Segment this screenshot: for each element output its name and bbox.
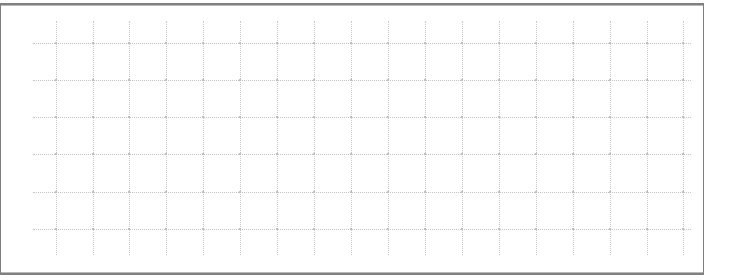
table-cell[interactable]: [240, 229, 277, 255]
table-cell[interactable]: [56, 80, 93, 117]
table-cell[interactable]: [277, 80, 314, 117]
table-cell[interactable]: [93, 80, 129, 117]
table-cell[interactable]: [56, 154, 93, 192]
table-cell[interactable]: [647, 229, 683, 255]
table-cell[interactable]: [499, 192, 536, 229]
table-cell[interactable]: [536, 80, 573, 117]
table-cell[interactable]: [166, 229, 203, 255]
table-cell[interactable]: [462, 80, 499, 117]
table-cell[interactable]: [203, 229, 240, 255]
table-cell[interactable]: [240, 154, 277, 192]
table-cell[interactable]: [499, 154, 536, 192]
table-cell[interactable]: [388, 43, 425, 80]
table-cell[interactable]: [499, 43, 536, 80]
table-cell[interactable]: [277, 154, 314, 192]
table-cell[interactable]: [240, 117, 277, 154]
table-cell[interactable]: [203, 43, 240, 80]
table-cell[interactable]: [351, 21, 388, 43]
table-cell[interactable]: [314, 192, 351, 229]
table-cell[interactable]: [647, 21, 683, 43]
table-cell[interactable]: [610, 192, 647, 229]
table-cell[interactable]: [351, 229, 388, 255]
table-cell[interactable]: [647, 43, 683, 80]
table-cell[interactable]: [351, 43, 388, 80]
table-cell[interactable]: [425, 21, 462, 43]
table-cell[interactable]: [56, 21, 93, 43]
table-cell[interactable]: [462, 154, 499, 192]
table-cell[interactable]: [129, 154, 166, 192]
table-cell[interactable]: [536, 192, 573, 229]
table-cell[interactable]: [129, 192, 166, 229]
table-cell[interactable]: [166, 154, 203, 192]
table-cell[interactable]: [277, 229, 314, 255]
table-cell[interactable]: [388, 80, 425, 117]
table-cell[interactable]: [462, 117, 499, 154]
table-cell[interactable]: [129, 43, 166, 80]
table-cell[interactable]: [166, 192, 203, 229]
table-cell[interactable]: [462, 229, 499, 255]
table-cell[interactable]: [277, 43, 314, 80]
table-cell[interactable]: [388, 229, 425, 255]
table-cell[interactable]: [203, 117, 240, 154]
table-cell[interactable]: [573, 43, 610, 80]
table-cell[interactable]: [56, 192, 93, 229]
table-cell[interactable]: [462, 21, 499, 43]
table-cell[interactable]: [314, 229, 351, 255]
table-cell[interactable]: [93, 21, 129, 43]
table-cell[interactable]: [314, 117, 351, 154]
table-cell[interactable]: [536, 117, 573, 154]
table-cell[interactable]: [314, 154, 351, 192]
table-cell[interactable]: [166, 43, 203, 80]
table-cell[interactable]: [203, 192, 240, 229]
table-cell[interactable]: [647, 117, 683, 154]
table-cell[interactable]: [388, 117, 425, 154]
table-cell[interactable]: [240, 192, 277, 229]
table-cell[interactable]: [166, 117, 203, 154]
table-cell[interactable]: [573, 117, 610, 154]
table-cell[interactable]: [388, 192, 425, 229]
table-cell[interactable]: [462, 192, 499, 229]
table-cell[interactable]: [499, 80, 536, 117]
table-cell[interactable]: [166, 21, 203, 43]
table-cell[interactable]: [573, 154, 610, 192]
table-cell[interactable]: [351, 80, 388, 117]
table-cell[interactable]: [536, 43, 573, 80]
table-cell[interactable]: [203, 80, 240, 117]
table-cell[interactable]: [647, 80, 683, 117]
table-cell[interactable]: [93, 229, 129, 255]
table-cell[interactable]: [647, 192, 683, 229]
table-cell[interactable]: [314, 21, 351, 43]
table-cell[interactable]: [573, 21, 610, 43]
table-cell[interactable]: [425, 154, 462, 192]
table-cell[interactable]: [610, 43, 647, 80]
table-cell[interactable]: [129, 80, 166, 117]
table-cell[interactable]: [129, 229, 166, 255]
table-cell[interactable]: [314, 43, 351, 80]
table-cell[interactable]: [240, 21, 277, 43]
table-cell[interactable]: [499, 117, 536, 154]
table-cell[interactable]: [499, 229, 536, 255]
table-cell[interactable]: [240, 80, 277, 117]
table-cell[interactable]: [93, 43, 129, 80]
table-cell[interactable]: [203, 21, 240, 43]
table-cell[interactable]: [351, 154, 388, 192]
table-cell[interactable]: [388, 154, 425, 192]
table-cell[interactable]: [129, 117, 166, 154]
table-cell[interactable]: [56, 229, 93, 255]
grid-area[interactable]: [1, 5, 703, 273]
table-cell[interactable]: [314, 80, 351, 117]
table-cell[interactable]: [56, 43, 93, 80]
table-cell[interactable]: [610, 80, 647, 117]
table-cell[interactable]: [93, 192, 129, 229]
table-cell[interactable]: [351, 192, 388, 229]
table-cell[interactable]: [573, 192, 610, 229]
table-cell[interactable]: [240, 43, 277, 80]
table-cell[interactable]: [425, 43, 462, 80]
table-cell[interactable]: [647, 154, 683, 192]
table-cell[interactable]: [277, 21, 314, 43]
table-cell[interactable]: [462, 43, 499, 80]
table-cell[interactable]: [93, 154, 129, 192]
table-cell[interactable]: [573, 80, 610, 117]
table-cell[interactable]: [425, 229, 462, 255]
table-cell[interactable]: [573, 229, 610, 255]
